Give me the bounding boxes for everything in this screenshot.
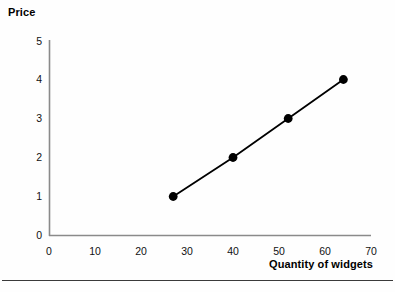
x-tick-label-30: 30: [175, 245, 199, 257]
y-tick-label-4: 4: [26, 73, 42, 85]
chart-page: Price 5 4 3 2 1 0 0 10 20 30 40 50 60 70…: [0, 0, 395, 292]
x-tick-label-50: 50: [267, 245, 291, 257]
x-axis-title: Quantity of widgets: [0, 258, 373, 270]
x-tick-label-20: 20: [129, 245, 153, 257]
x-tick-label-0: 0: [37, 245, 61, 257]
x-tick-label-60: 60: [313, 245, 337, 257]
x-tick-label-40: 40: [221, 245, 245, 257]
x-tick-label-10: 10: [83, 245, 107, 257]
y-tick-label-0: 0: [26, 229, 42, 241]
y-tick-label-2: 2: [26, 151, 42, 163]
data-line: [173, 80, 343, 197]
data-point: [169, 192, 178, 201]
x-tick-label-70: 70: [359, 245, 383, 257]
data-point: [339, 75, 348, 84]
bottom-divider: [2, 280, 393, 281]
y-tick-label-5: 5: [26, 35, 42, 47]
y-tick-label-1: 1: [26, 190, 42, 202]
data-point: [229, 153, 238, 162]
y-tick-label-3: 3: [26, 112, 42, 124]
data-point: [284, 114, 293, 123]
